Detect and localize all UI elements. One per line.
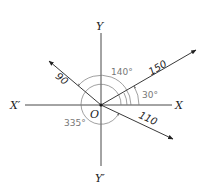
angle-arc-30 bbox=[134, 86, 139, 105]
vector-90 bbox=[49, 61, 101, 105]
x-axis-label: X bbox=[174, 99, 184, 112]
vector-110 bbox=[101, 105, 173, 139]
angle-arc-140 bbox=[78, 75, 131, 105]
angle-label-30: 30° bbox=[142, 90, 158, 100]
y-axis-label: Y bbox=[96, 20, 105, 33]
x-prime-axis-label: X′ bbox=[9, 99, 21, 112]
angle-label-140: 140° bbox=[111, 67, 133, 77]
vector-110-magnitude: 110 bbox=[137, 109, 159, 127]
vector-90-magnitude: 90 bbox=[54, 70, 71, 87]
angle-arc-inner bbox=[124, 93, 127, 105]
y-prime-axis-label: Y′ bbox=[95, 172, 105, 185]
angle-label-335: 335° bbox=[64, 118, 86, 128]
vector-diagram: Y Y′ X X′ O 150 90 110 30° 140° 335° bbox=[0, 0, 206, 195]
vector-150-magnitude: 150 bbox=[147, 58, 169, 77]
origin-label: O bbox=[90, 108, 99, 121]
